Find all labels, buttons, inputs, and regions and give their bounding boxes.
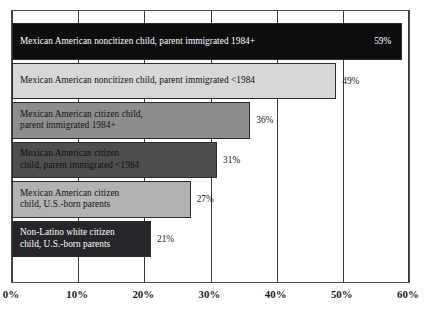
bar-category-label: Mexican American citizen child, parent i… — [13, 148, 145, 171]
x-tick-label: 50% — [331, 288, 353, 300]
bar-row: Mexican American noncitizen child, paren… — [12, 23, 409, 60]
bar-row: Mexican American citizen child, parent i… — [12, 142, 409, 179]
bar[interactable]: Mexican American citizen child, U.S.-bor… — [12, 181, 191, 218]
bar-chart-figure: Mexican American noncitizen child, paren… — [0, 0, 426, 314]
bar-value-label: 36% — [256, 115, 273, 125]
bar[interactable]: Non-Latino white citizen child, U.S.-bor… — [12, 221, 151, 258]
bar[interactable]: Mexican American citizen child, parent i… — [12, 142, 217, 179]
x-tick-label: 60% — [397, 288, 419, 300]
bar-row: Mexican American noncitizen child, paren… — [12, 63, 409, 100]
x-tick-label: 10% — [66, 288, 88, 300]
x-tick-label: 40% — [265, 288, 287, 300]
bar-value-label: 59% — [374, 36, 391, 46]
bar-row: Non-Latino white citizen child, U.S.-bor… — [12, 221, 409, 258]
bar[interactable]: Mexican American citizen child, parent i… — [12, 102, 250, 139]
bar-category-label: Mexican American citizen child, parent i… — [13, 109, 149, 132]
bar-category-label: Mexican American citizen child, U.S.-bor… — [13, 188, 125, 211]
plot-area: Mexican American noncitizen child, paren… — [11, 10, 410, 283]
bar-value-label: 21% — [157, 234, 174, 244]
bar-value-label: 49% — [342, 76, 359, 86]
bar-value-label: 31% — [223, 155, 240, 165]
bar-category-label: Non-Latino white citizen child, U.S.-bor… — [13, 227, 121, 250]
bars-layer: Mexican American noncitizen child, paren… — [12, 11, 409, 282]
bar-category-label: Mexican American noncitizen child, paren… — [13, 36, 261, 47]
bar[interactable]: Mexican American noncitizen child, paren… — [12, 63, 336, 100]
bar-value-label: 27% — [197, 194, 214, 204]
bar-row: Mexican American citizen child, parent i… — [12, 102, 409, 139]
bar[interactable]: Mexican American noncitizen child, paren… — [12, 23, 402, 60]
x-tick-label: 20% — [132, 288, 154, 300]
x-tick-label: 30% — [199, 288, 221, 300]
bar-category-label: Mexican American noncitizen child, paren… — [13, 75, 261, 86]
bar-row: Mexican American citizen child, U.S.-bor… — [12, 181, 409, 218]
x-axis-tick-labels: 0%10%20%30%40%50%60% — [0, 288, 426, 308]
x-tick-label: 0% — [3, 288, 19, 300]
